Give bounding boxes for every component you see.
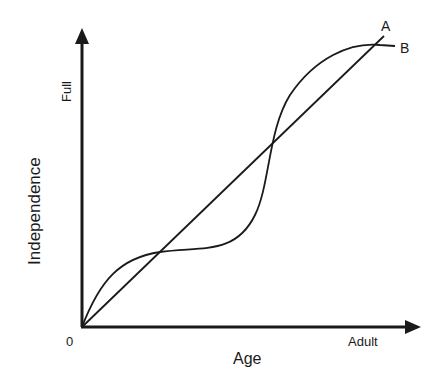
independence-age-diagram: A B 0 Adult Age Full Independence xyxy=(0,0,442,387)
line-a xyxy=(82,36,384,327)
x-end-label: Adult xyxy=(348,334,378,349)
y-axis-title: Independence xyxy=(25,157,44,265)
x-axis-arrow-icon xyxy=(405,320,421,334)
line-a-label: A xyxy=(381,18,391,34)
curve-b xyxy=(82,45,395,327)
y-axis-arrow-icon xyxy=(75,28,89,44)
origin-label: 0 xyxy=(66,334,73,349)
line-b-label: B xyxy=(400,40,409,56)
x-axis-title: Age xyxy=(233,350,262,367)
y-end-label: Full xyxy=(59,81,74,102)
